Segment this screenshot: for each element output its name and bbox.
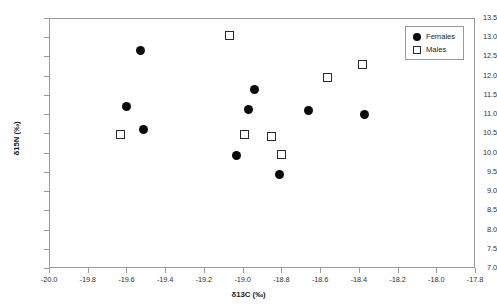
x-tick-label: -18.8	[259, 276, 303, 283]
y-tick-mark	[44, 153, 49, 154]
y-tick-label: 7.5	[455, 245, 497, 252]
y-tick-label: 11.5	[455, 91, 497, 98]
y-tick-label: 9.0	[455, 187, 497, 194]
data-point-female	[139, 125, 148, 134]
x-tick-label: -18.0	[414, 276, 458, 283]
x-tick-label: -20.0	[27, 276, 71, 283]
x-tick-label: -17.8	[453, 276, 497, 283]
data-point-male	[116, 130, 125, 139]
x-axis-title: δ13C (‰)	[0, 290, 497, 299]
y-tick-mark	[44, 56, 49, 57]
filled-circle-icon	[411, 33, 422, 41]
y-tick-mark	[44, 37, 49, 38]
x-tick-label: -19.0	[221, 276, 265, 283]
x-tick-mark	[243, 268, 244, 273]
x-tick-label: -18.6	[298, 276, 342, 283]
x-tick-mark	[49, 268, 50, 273]
y-tick-mark	[44, 95, 49, 96]
open-square-icon	[411, 46, 422, 54]
x-tick-mark	[398, 268, 399, 273]
data-point-female	[122, 102, 131, 111]
x-tick-label: -19.8	[66, 276, 110, 283]
y-tick-mark	[44, 172, 49, 173]
data-point-female	[250, 85, 259, 94]
legend: Females Males	[405, 26, 464, 60]
y-tick-label: 8.5	[455, 206, 497, 213]
legend-label-females: Females	[426, 32, 455, 41]
x-tick-mark	[359, 268, 360, 273]
scatter-plot-figure: 7.07.58.08.59.09.510.010.511.011.512.012…	[0, 0, 497, 308]
x-tick-label: -19.6	[104, 276, 148, 283]
y-tick-label: 10.5	[455, 129, 497, 136]
x-tick-mark	[320, 268, 321, 273]
y-tick-mark	[44, 18, 49, 19]
x-tick-label: -18.4	[337, 276, 381, 283]
x-tick-mark	[165, 268, 166, 273]
x-tick-mark	[88, 268, 89, 273]
y-axis-title: δ15N (‰)	[12, 99, 21, 179]
y-tick-label: 8.0	[455, 226, 497, 233]
legend-item-females: Females	[411, 31, 458, 42]
x-tick-mark	[436, 268, 437, 273]
y-tick-mark	[44, 230, 49, 231]
x-tick-mark	[126, 268, 127, 273]
y-tick-label: 11.0	[455, 110, 497, 117]
x-tick-mark	[204, 268, 205, 273]
legend-item-males: Males	[411, 44, 458, 55]
data-point-male	[267, 132, 276, 141]
y-tick-label: 9.5	[455, 168, 497, 175]
x-tick-label: -19.4	[143, 276, 187, 283]
x-tick-label: -18.2	[376, 276, 420, 283]
y-tick-mark	[44, 114, 49, 115]
y-tick-mark	[44, 191, 49, 192]
y-tick-label: 12.0	[455, 72, 497, 79]
x-tick-mark	[475, 268, 476, 273]
data-point-male	[323, 73, 332, 82]
y-tick-mark	[44, 210, 49, 211]
y-tick-mark	[44, 133, 49, 134]
data-point-male	[358, 60, 367, 69]
y-tick-label: 10.0	[455, 149, 497, 156]
data-point-male	[225, 31, 234, 40]
y-tick-label: 13.5	[455, 14, 497, 21]
data-point-female	[136, 46, 145, 55]
y-tick-label: 7.0	[455, 264, 497, 271]
x-tick-mark	[281, 268, 282, 273]
y-tick-mark	[44, 76, 49, 77]
legend-label-males: Males	[426, 45, 446, 54]
x-tick-label: -19.2	[182, 276, 226, 283]
data-point-male	[240, 130, 249, 139]
y-tick-mark	[44, 249, 49, 250]
data-point-male	[277, 150, 286, 159]
